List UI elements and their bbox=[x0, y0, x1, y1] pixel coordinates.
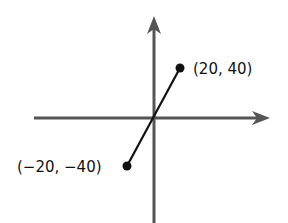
label-lower-point: (−20, −40) bbox=[17, 158, 102, 176]
endpoint-upper bbox=[176, 64, 185, 73]
label-upper-point: (20, 40) bbox=[193, 60, 252, 78]
coordinate-plane-figure: (20, 40) (−20, −40) bbox=[0, 0, 288, 223]
endpoint-lower bbox=[123, 162, 132, 171]
